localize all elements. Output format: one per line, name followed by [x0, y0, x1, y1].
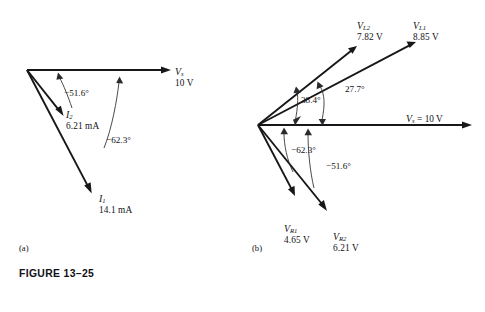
vector-vl2-b	[258, 46, 357, 125]
label-vr2-b-magnitude: 6.21 V	[333, 243, 359, 253]
label-i2-a: I2 6.21 mA	[66, 104, 99, 131]
label-vs-b: Vs= 10 V	[406, 108, 443, 125]
label-vs-b-subscript: s	[412, 117, 415, 124]
label-i1-a: I1 14.1 mA	[99, 188, 132, 215]
phasor-diagram-figure: Vs 10 V I2 6.21 mA I1 14.1 mA −51.6° −62…	[0, 0, 485, 312]
label-vr1-b-subscript: R1	[290, 227, 297, 234]
label-i2-a-magnitude: 6.21 mA	[66, 121, 99, 131]
label-vr2-b: VR2 6.21 V	[333, 226, 359, 253]
panel-b-vectors	[258, 42, 472, 211]
vector-vr2-b	[258, 125, 327, 211]
angle-arc-vr2-b	[305, 129, 315, 189]
angle-label-vl2-b: 38.4°	[301, 95, 321, 105]
label-i1-a-magnitude: 14.1 mA	[99, 205, 132, 215]
label-vs-a-subscript: s	[181, 70, 184, 77]
label-vs-a: Vs 10 V	[175, 61, 194, 88]
vector-vl1-b	[258, 42, 416, 125]
panel-b-tag: (b)	[252, 243, 262, 253]
label-vs-b-magnitude: = 10 V	[417, 114, 443, 124]
label-vr2-b-subscript: R2	[339, 235, 346, 242]
label-vl1-b: VL1 8.85 V	[413, 15, 439, 42]
label-vs-a-magnitude: 10 V	[175, 78, 194, 88]
label-vl2-b-magnitude: 7.82 V	[357, 32, 383, 42]
angle-label-i1-a: −62.3°	[106, 135, 131, 145]
phasor-vector-canvas	[0, 0, 485, 312]
angle-label-vr1-b: −62.3°	[291, 145, 316, 155]
angle-label-vl1-b: 27.7°	[345, 84, 365, 94]
vector-vs-a	[27, 66, 171, 73]
angle-label-i2-a: −51.6°	[64, 88, 89, 98]
figure-caption: FIGURE 13–25	[19, 268, 94, 279]
vector-vr1-b	[258, 125, 295, 196]
label-vr1-b-magnitude: 4.65 V	[284, 235, 310, 245]
panel-a-tag: (a)	[19, 243, 29, 253]
label-vl1-b-magnitude: 8.85 V	[413, 32, 439, 42]
angle-label-vr2-b: −51.6°	[326, 161, 351, 171]
label-vl1-b-subscript: L1	[419, 24, 426, 31]
label-i2-a-subscript: 2	[69, 113, 72, 120]
label-vl2-b-subscript: L2	[363, 24, 370, 31]
label-i1-a-subscript: 1	[102, 197, 105, 204]
label-vl2-b: VL2 7.82 V	[357, 15, 383, 42]
label-vr1-b: VR1 4.65 V	[284, 218, 310, 245]
